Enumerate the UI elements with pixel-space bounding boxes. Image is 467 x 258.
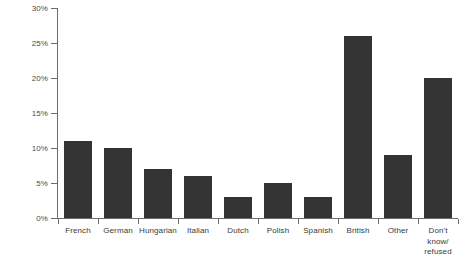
- bar-chart: 0%5%10%15%20%25%30% FrenchGermanHungaria…: [0, 0, 467, 258]
- y-axis-tick-label: 10%: [32, 145, 48, 153]
- y-axis-tick: 0%: [51, 218, 58, 219]
- x-axis-tick: [178, 219, 179, 224]
- x-axis-tick: [138, 219, 139, 224]
- x-axis-label: Other: [378, 226, 418, 237]
- bar: [424, 78, 452, 218]
- x-axis-label: British: [338, 226, 378, 237]
- bar: [264, 183, 292, 218]
- y-axis-tick-label: 20%: [32, 75, 48, 83]
- x-axis-label: Spanish: [298, 226, 338, 237]
- x-axis-tick: [298, 219, 299, 224]
- y-axis-tick: 20%: [51, 78, 58, 79]
- bar: [384, 155, 412, 218]
- x-axis-tick: [258, 219, 259, 224]
- x-axis-labels: FrenchGermanHungarianItalianDutchPolishS…: [58, 226, 458, 258]
- x-axis-tick: [418, 219, 419, 224]
- bar: [184, 176, 212, 218]
- x-axis-label: Polish: [258, 226, 298, 237]
- bar: [344, 36, 372, 218]
- y-axis-tick: 5%: [51, 183, 58, 184]
- x-axis-label: German: [98, 226, 138, 237]
- y-axis-tick-label: 5%: [36, 180, 48, 188]
- x-axis-tick: [58, 219, 59, 224]
- y-axis-tick-label: 0%: [36, 215, 48, 223]
- x-axis-tick: [338, 219, 339, 224]
- bar: [304, 197, 332, 218]
- x-axis-label: Don't know/ refused: [418, 226, 458, 258]
- y-axis-tick: 25%: [51, 43, 58, 44]
- x-axis-label: Italian: [178, 226, 218, 237]
- y-axis-tick-label: 30%: [32, 5, 48, 13]
- x-axis-label: Dutch: [218, 226, 258, 237]
- x-axis-tick: [378, 219, 379, 224]
- y-axis-tick-label: 25%: [32, 40, 48, 48]
- y-axis-tick: 15%: [51, 113, 58, 114]
- y-axis-tick: 10%: [51, 148, 58, 149]
- bar: [104, 148, 132, 218]
- x-axis-tick: [218, 219, 219, 224]
- bar-series: [58, 8, 458, 218]
- x-axis-label: French: [58, 226, 98, 237]
- x-axis-label: Hungarian: [138, 226, 178, 237]
- y-axis-tick: 30%: [51, 8, 58, 9]
- y-axis-tick-label: 15%: [32, 110, 48, 118]
- x-axis-tick: [98, 219, 99, 224]
- bar: [144, 169, 172, 218]
- x-axis-tick: [458, 219, 459, 224]
- bar: [64, 141, 92, 218]
- bar: [224, 197, 252, 218]
